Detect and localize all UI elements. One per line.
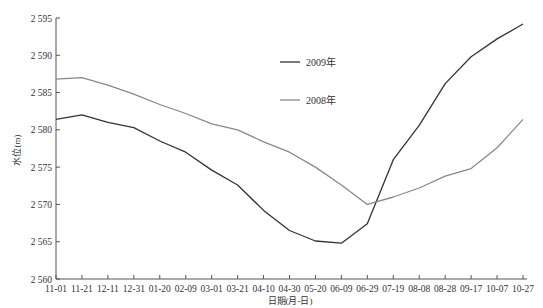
legend-label: 2009年 bbox=[306, 56, 336, 68]
series-layer bbox=[56, 24, 523, 243]
y-tick-label: 2 585 bbox=[31, 88, 53, 98]
x-tick-label: 03-21 bbox=[227, 284, 249, 294]
series-line bbox=[56, 78, 523, 205]
y-axis-title: 水位(m) bbox=[11, 135, 22, 166]
x-tick-label: 04-30 bbox=[278, 284, 300, 294]
series-line bbox=[56, 24, 523, 243]
y-axis: 2 5602 5652 5702 5752 5802 5852 5902 595 bbox=[31, 14, 60, 285]
x-tick-label: 09-17 bbox=[460, 284, 482, 294]
line-chart: 2 5602 5652 5702 5752 5802 5852 5902 595… bbox=[0, 0, 543, 308]
x-tick-label: 10-07 bbox=[486, 284, 508, 294]
x-tick-label: 07-19 bbox=[382, 284, 404, 294]
y-tick-label: 2 560 bbox=[31, 275, 53, 285]
x-tick-label: 12-11 bbox=[97, 284, 119, 294]
legend-label: 2008年 bbox=[306, 94, 336, 106]
x-tick-label: 12-31 bbox=[123, 284, 145, 294]
y-tick-label: 2 580 bbox=[31, 125, 53, 135]
y-tick-label: 2 570 bbox=[31, 200, 53, 210]
x-tick-label: 11-01 bbox=[45, 284, 67, 294]
x-axis-title: 日期(月-日) bbox=[268, 296, 313, 306]
y-tick-label: 2 595 bbox=[31, 14, 53, 24]
x-tick-label: 08-08 bbox=[408, 284, 430, 294]
y-tick-label: 2 590 bbox=[31, 51, 53, 61]
x-tick-label: 06-29 bbox=[356, 284, 378, 294]
x-tick-label: 11-21 bbox=[71, 284, 93, 294]
legend: 2009年2008年 bbox=[280, 56, 336, 106]
y-tick-label: 2 575 bbox=[31, 163, 53, 173]
x-tick-label: 01-20 bbox=[149, 284, 171, 294]
x-tick-label: 08-28 bbox=[434, 284, 456, 294]
x-tick-label: 10-27 bbox=[512, 284, 534, 294]
x-tick-label: 05-20 bbox=[304, 284, 326, 294]
y-tick-label: 2 565 bbox=[31, 237, 53, 247]
x-tick-label: 06-09 bbox=[330, 284, 352, 294]
x-tick-label: 04-10 bbox=[252, 284, 274, 294]
x-tick-label: 03-01 bbox=[201, 284, 223, 294]
x-tick-label: 02-09 bbox=[175, 284, 197, 294]
x-axis: 11-0111-2112-1112-3101-2002-0903-0103-21… bbox=[45, 275, 534, 294]
